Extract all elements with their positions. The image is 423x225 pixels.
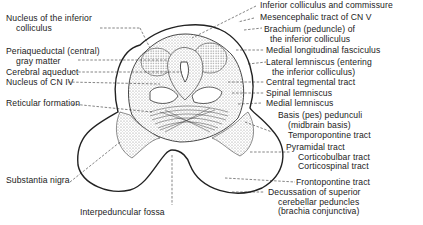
label-nucleus-cn-iv: Nucleus of CN IV	[6, 78, 74, 88]
label-mlf: Medial longitudinal fasciculus	[266, 46, 380, 56]
label-substantia-nigra: Substantia nigra	[6, 176, 70, 186]
label-medial-lemniscus: Medial lemniscus	[266, 99, 334, 109]
label-inferior-colliculus-commissure: Inferior colliculus and commissure	[260, 1, 393, 11]
label-central-tegmental: Central tegmental tract	[266, 78, 355, 88]
label-periaqueductal-gray: Periaqueductal (central) gray matter	[6, 47, 100, 66]
midbrain-diagram: Nucleus of the inferior colliculus Peria…	[0, 0, 423, 225]
label-decussation-scp: Decussation of superior cerebellar pedun…	[268, 188, 361, 217]
label-interpeduncular-fossa: Interpeduncular fossa	[80, 208, 165, 218]
label-temporopontine: Temporopontine tract	[288, 131, 371, 141]
label-brachium-inferior-colliculus: Brachium (peduncle) of the inferior coll…	[264, 25, 355, 44]
label-pyramidal-tract: Pyramidal tract Corticobulbar tract Cort…	[286, 143, 370, 172]
label-mesencephalic-tract: Mesencephalic tract of CN V	[260, 13, 372, 23]
label-nucleus-inferior-colliculus: Nucleus of the inferior colliculus	[6, 14, 92, 33]
label-basis-pedunculi: Basis (pes) pedunculi (midbrain basis)	[278, 111, 362, 130]
label-reticular-formation: Reticular formation	[6, 99, 80, 109]
label-lateral-lemniscus: Lateral lemniscus (entering the inferior…	[266, 58, 372, 77]
